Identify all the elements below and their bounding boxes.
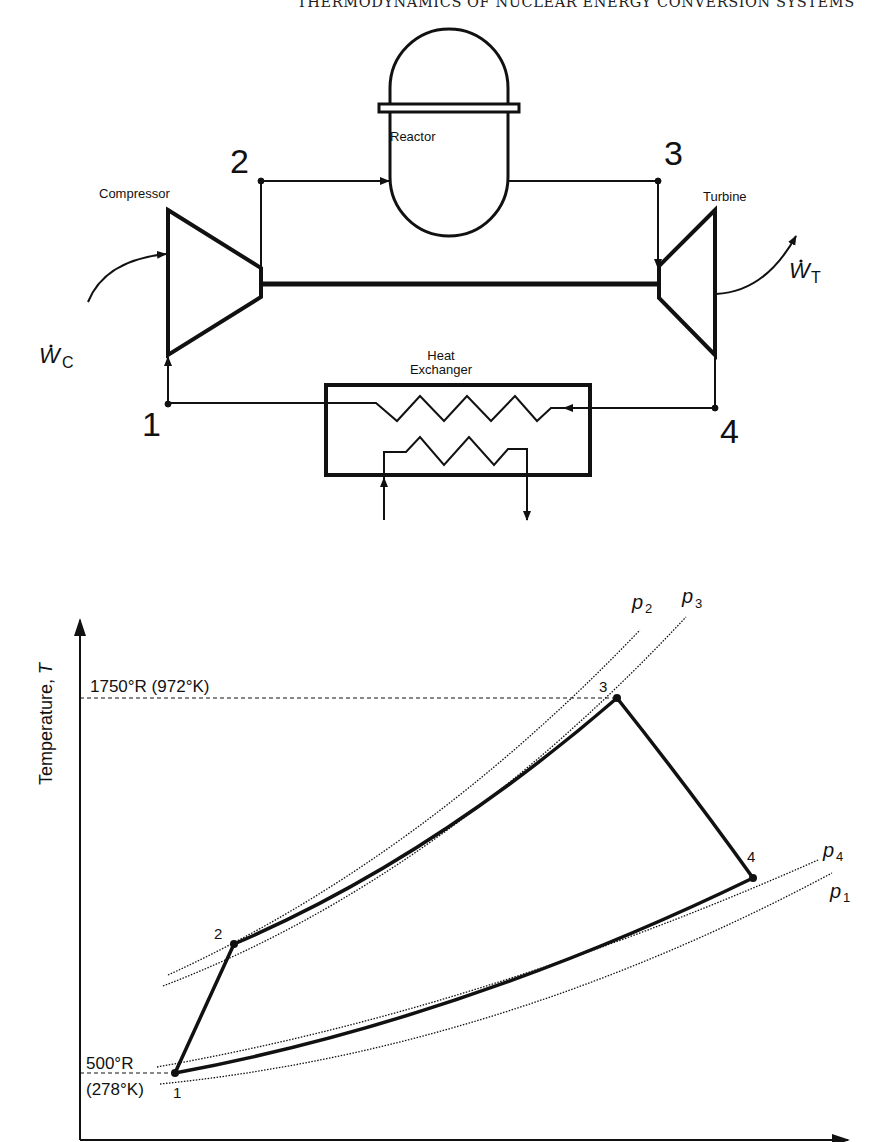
svg-text:1: 1 bbox=[843, 890, 850, 905]
state-point-3-label: 3 bbox=[664, 134, 683, 172]
isobar-label-p1: p 1 bbox=[829, 880, 850, 905]
t-low-label-r: 500°R bbox=[86, 1054, 133, 1073]
ts-point-1: 1 bbox=[173, 1084, 181, 1101]
state-point-2-label: 2 bbox=[230, 142, 249, 180]
svg-text:2: 2 bbox=[645, 601, 652, 616]
svg-text:C: C bbox=[62, 354, 74, 371]
t-low-label-k: (278°K) bbox=[86, 1080, 144, 1099]
turbine-shape bbox=[659, 210, 715, 355]
svg-text:T: T bbox=[811, 269, 821, 286]
isobar-label-p2: p 2 bbox=[631, 591, 652, 616]
hot-side-coil bbox=[168, 396, 564, 421]
compressor-shape bbox=[168, 210, 261, 355]
compressor-work-arrow bbox=[88, 254, 166, 302]
ts-point-3: 3 bbox=[599, 678, 607, 695]
turbine-work-label: W T bbox=[789, 258, 821, 286]
ts-point-2: 2 bbox=[214, 925, 222, 942]
heat-exchanger-label-2: Exchanger bbox=[410, 362, 473, 377]
svg-text:3: 3 bbox=[695, 596, 702, 611]
svg-text:4: 4 bbox=[836, 849, 843, 864]
isobar-p3 bbox=[163, 617, 686, 986]
turbine-work-arrow bbox=[716, 236, 796, 294]
svg-text:p: p bbox=[829, 880, 841, 902]
isobar-label-p3: p 3 bbox=[681, 585, 702, 611]
svg-text:p: p bbox=[631, 591, 643, 613]
coolant-coil bbox=[384, 437, 527, 518]
state-point-4-label: 4 bbox=[720, 412, 739, 450]
heat-exchanger-label-1: Heat bbox=[427, 348, 455, 363]
compressor-label: Compressor bbox=[99, 186, 170, 201]
isobar-p1 bbox=[160, 873, 832, 1084]
heat-exchanger-box bbox=[326, 385, 590, 475]
ts-point-4: 4 bbox=[747, 848, 755, 865]
plant-schematic bbox=[88, 29, 796, 520]
brayton-cycle-figure: Reactor Compressor Turbine Heat Exchange… bbox=[0, 0, 869, 1142]
isobar-label-p4: p 4 bbox=[822, 839, 843, 864]
y-axis-label: Temperature, T bbox=[36, 661, 56, 785]
reactor-label: Reactor bbox=[390, 129, 436, 144]
isobar-p2 bbox=[168, 630, 640, 975]
svg-text:p: p bbox=[681, 585, 693, 607]
compressor-work-label: W C bbox=[39, 343, 74, 371]
svg-text:p: p bbox=[822, 839, 834, 861]
t-high-label: 1750°R (972°K) bbox=[90, 677, 209, 696]
isobar-p4 bbox=[157, 860, 818, 1067]
turbine-label: Turbine bbox=[703, 189, 747, 204]
cycle-path bbox=[175, 698, 753, 1073]
state-point-1-label: 1 bbox=[142, 405, 161, 443]
